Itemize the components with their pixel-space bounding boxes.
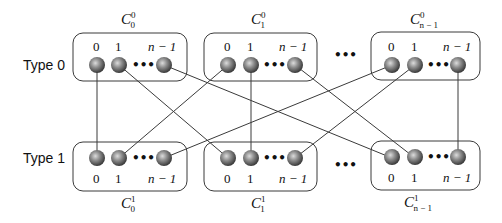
index-label: 0 [93,171,100,186]
node-sphere-icon [220,57,236,73]
node-sphere-icon [156,57,172,73]
edges [97,65,458,158]
node-sphere-icon [243,150,259,166]
cluster-top-1: C01 0 1 n − 1 ••• [204,10,317,81]
ellipsis: ••• [132,151,155,165]
cluster-top-n-minus-1: C0n − 1 0 1 n − 1 ••• [371,10,480,80]
cluster-top-0: C00 0 1 n − 1 ••• [73,10,187,81]
node-sphere-icon [111,57,127,73]
node-sphere-icon [450,149,466,165]
index-label: n − 1 [148,171,176,186]
cluster-title: C00 [121,10,136,30]
cluster-title: C10 [121,194,136,214]
node-sphere-icon [220,150,236,166]
node-sphere-icon [287,150,303,166]
cluster-title: C01 [251,10,266,30]
index-label: 1 [115,39,122,54]
node-sphere-icon [156,150,172,166]
cluster-bottom-1: ••• 0 1 n − 1 C11 [204,142,317,214]
node-sphere-icon [384,149,400,165]
index-label: n − 1 [443,170,471,185]
index-label: n − 1 [443,39,471,54]
index-label: 0 [224,171,231,186]
node-sphere-icon [407,149,423,165]
row-label-type-1: Type 1 [23,150,65,166]
cluster-bipartite-diagram: Type 0 Type 1 C00 0 1 n − 1 ••• C01 0 1 … [0,0,502,223]
node-sphere-icon [450,57,466,73]
node-sphere-icon [243,57,259,73]
cluster-title: C1n − 1 [404,193,432,213]
cluster-bottom-n-minus-1: ••• 0 1 n − 1 C1n − 1 [371,141,480,213]
ellipsis: ••• [263,151,286,165]
ellipsis: ••• [263,58,286,72]
node-sphere-icon [384,57,400,73]
cluster-ellipsis-top: ••• [334,48,357,62]
cluster-title: C0n − 1 [410,10,438,30]
node-sphere-icon [89,150,105,166]
node-sphere-icon [89,57,105,73]
index-label: 0 [388,39,395,54]
index-label: 1 [247,171,254,186]
index-label: 1 [247,39,254,54]
cluster-title: C11 [251,194,265,214]
index-label: n − 1 [279,171,307,186]
cluster-bottom-0: ••• 0 1 n − 1 C10 [73,142,187,214]
index-label: 1 [411,170,418,185]
index-label: 0 [224,39,231,54]
row-label-type-0: Type 0 [23,57,65,73]
index-label: 0 [388,170,395,185]
ellipsis: ••• [132,58,155,72]
index-label: 1 [115,171,122,186]
index-label: 0 [93,39,100,54]
index-label: n − 1 [148,39,176,54]
cluster-ellipsis-bottom: ••• [334,158,357,172]
ellipsis: ••• [427,150,450,164]
node-sphere-icon [111,150,127,166]
index-label: n − 1 [279,39,307,54]
node-sphere-icon [407,57,423,73]
node-sphere-icon [287,57,303,73]
ellipsis: ••• [427,58,450,72]
index-label: 1 [411,39,418,54]
